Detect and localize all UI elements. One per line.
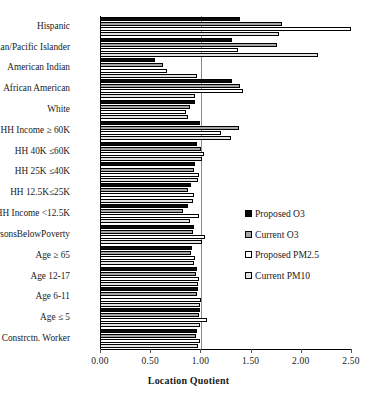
bar-0 — [100, 183, 191, 187]
bar-2 — [100, 173, 199, 177]
chart-group: Age ≤ 5 — [100, 307, 351, 328]
bar-3 — [100, 157, 202, 161]
bar-2 — [100, 235, 205, 239]
bar-1 — [100, 147, 201, 151]
bar-3 — [100, 136, 231, 140]
legend-label: Current PM10 — [255, 271, 310, 281]
chart-group: Constrctn. Worker — [100, 328, 351, 349]
bar-1 — [100, 168, 194, 172]
bar-1 — [100, 313, 199, 317]
bar-1 — [100, 22, 282, 26]
bar-0 — [100, 287, 198, 291]
legend-swatch-icon — [245, 251, 252, 258]
x-tick-0 — [100, 349, 101, 353]
bar-3 — [100, 323, 200, 327]
y-category-label: Age ≥ 65 — [35, 251, 70, 260]
bar-0 — [100, 204, 188, 208]
bar-1 — [100, 334, 196, 338]
chart-group: African American — [100, 78, 351, 99]
y-category-label: Constrctn. Worker — [2, 334, 70, 343]
chart-group: HH Income ≥ 60K — [100, 120, 351, 141]
bar-1 — [100, 188, 188, 192]
x-axis-line — [100, 349, 352, 350]
y-category-label: HH 40K ≤60K — [15, 147, 70, 156]
y-category-label: PersonsBelowPoverty — [0, 230, 70, 239]
bar-0 — [100, 17, 240, 21]
y-category-label: HH Income ≥ 60K — [1, 126, 70, 135]
legend-item: Current O3 — [245, 230, 319, 240]
bar-0 — [100, 100, 195, 104]
x-tick-label-4: 2.00 — [292, 356, 309, 366]
legend-item: Proposed PM2.5 — [245, 250, 319, 260]
bar-0 — [100, 79, 232, 83]
bar-2 — [100, 69, 167, 73]
bar-3 — [100, 53, 318, 57]
legend-swatch-icon — [245, 210, 252, 217]
y-category-label: African American — [3, 84, 70, 93]
bar-1 — [100, 272, 196, 276]
plot-area: HispanicAsian/Pacific IslanderAmerican I… — [100, 16, 351, 349]
x-tick-1 — [150, 349, 151, 353]
x-tick-3 — [251, 349, 252, 353]
bar-2 — [100, 110, 186, 114]
bar-2 — [100, 48, 238, 52]
bar-3 — [100, 94, 195, 98]
bar-0 — [100, 121, 200, 125]
x-tick-4 — [301, 349, 302, 353]
chart-group: White — [100, 99, 351, 120]
x-tick-label-1: 0.50 — [141, 356, 158, 366]
y-category-label: HH 25K ≤40K — [15, 167, 70, 176]
bar-2 — [100, 152, 204, 156]
bar-1 — [100, 230, 193, 234]
bar-2 — [100, 339, 200, 343]
y-category-label: HH 12.5K≤25K — [10, 188, 70, 197]
bar-2 — [100, 27, 351, 31]
legend-swatch-icon — [245, 272, 252, 279]
bar-3 — [100, 74, 197, 78]
chart-group: American Indian — [100, 58, 351, 79]
bar-3 — [100, 199, 193, 203]
bar-1 — [100, 292, 197, 296]
y-category-label: Asian/Pacific Islander — [0, 43, 70, 52]
bar-3 — [100, 282, 198, 286]
bar-3 — [100, 240, 202, 244]
bar-1 — [100, 126, 239, 130]
bar-3 — [100, 303, 200, 307]
legend-item: Proposed O3 — [245, 209, 319, 219]
x-tick-label-0: 0.00 — [91, 356, 108, 366]
bar-0 — [100, 267, 197, 271]
bar-2 — [100, 193, 194, 197]
y-category-label: Age 12-17 — [30, 272, 70, 281]
bar-3 — [100, 344, 198, 348]
legend-label: Current O3 — [255, 230, 298, 240]
bar-3 — [100, 115, 188, 119]
bar-1 — [100, 63, 163, 67]
chart-group: HH 40K ≤60K — [100, 141, 351, 162]
location-quotient-bar-chart: HispanicAsian/Pacific IslanderAmerican I… — [0, 0, 377, 408]
y-category-label: White — [47, 105, 70, 114]
bar-2 — [100, 89, 243, 93]
y-category-label: Hispanic — [37, 22, 70, 31]
bar-2 — [100, 131, 221, 135]
bar-3 — [100, 32, 279, 36]
bar-1 — [100, 209, 183, 213]
bar-1 — [100, 105, 190, 109]
bar-0 — [100, 162, 195, 166]
bar-1 — [100, 43, 277, 47]
x-axis-title: Location Quotient — [0, 375, 377, 386]
chart-group: HH 12.5K≤25K — [100, 183, 351, 204]
chart-group: HH 25K ≤40K — [100, 162, 351, 183]
bar-2 — [100, 318, 207, 322]
bar-2 — [100, 256, 195, 260]
bar-3 — [100, 219, 190, 223]
bar-2 — [100, 298, 201, 302]
x-tick-label-2: 1.00 — [192, 356, 209, 366]
x-tick-2 — [200, 349, 201, 353]
bar-1 — [100, 251, 191, 255]
bar-2 — [100, 214, 199, 218]
chart-group: Hispanic — [100, 16, 351, 37]
chart-legend: Proposed O3Current O3Proposed PM2.5Curre… — [245, 209, 319, 291]
legend-swatch-icon — [245, 231, 252, 238]
bar-0 — [100, 225, 194, 229]
y-category-label: HH Income <12.5K — [0, 209, 70, 218]
